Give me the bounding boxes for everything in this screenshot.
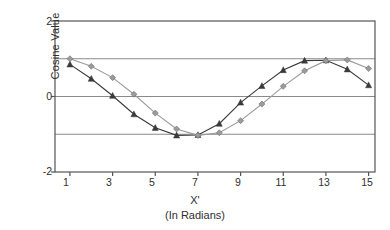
x-tick-label: 15 [354,176,380,188]
data-point-marker [259,83,265,89]
data-point-marker [366,82,372,88]
x-tick-label: 5 [139,176,165,188]
x-tick-label: 3 [96,176,122,188]
data-point-marker [344,57,350,63]
x-tick-label: 7 [182,176,208,188]
x-tick-label: 1 [53,176,79,188]
cosine-chart: Cosine Value 2 0 -2 1 3 5 7 9 11 13 15 X… [0,0,390,230]
data-point-marker [110,92,116,98]
x-axis-subtitle: (In Radians) [0,209,390,221]
x-tick-label: 9 [225,176,251,188]
data-point-marker [152,125,158,131]
data-point-marker [88,63,94,69]
data-point-marker [67,56,73,62]
x-tick-label: 11 [268,176,294,188]
y-tick-label: 0 [24,90,52,102]
x-axis-tick-labels: 1 3 5 7 9 11 13 15 [0,176,390,192]
x-axis-title: X' [0,194,390,206]
x-tick-label: 13 [311,176,337,188]
data-point-marker [88,75,94,81]
data-point-marker [238,99,244,105]
y-tick-label: 2 [24,15,52,27]
data-point-marker [366,66,372,72]
data-point-marker [216,130,222,136]
